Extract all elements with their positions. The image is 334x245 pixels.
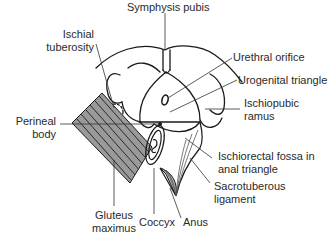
label-ischiopubic-ramus-line1: Ischiopubic [244, 97, 299, 110]
label-perineal-body-line1: Perineal [10, 115, 56, 128]
label-ischiorectal-fossa-line1: Ischiorectal fossa in [218, 150, 315, 163]
pubic-outline [96, 46, 242, 82]
label-perineal-body-line2: body [10, 128, 56, 141]
label-sacrotuberous-ligament-line2: ligament [214, 193, 256, 206]
label-ischiopubic-ramus-line2: ramus [244, 110, 275, 123]
label-gluteus-maximus-line1: Gluteus [88, 209, 140, 222]
label-symphysis-pubis: Symphysis pubis [127, 1, 210, 14]
label-anus: Anus [183, 216, 208, 229]
label-sacrotuberous-ligament-line1: Sacrotuberous [214, 180, 286, 193]
sacrotuberous-ligament [160, 122, 202, 196]
gluteus-maximus-muscle [55, 68, 180, 194]
urogenital-triangle-outline [140, 72, 166, 122]
label-urogenital-triangle: Urogenital triangle [238, 74, 327, 87]
label-urethral-orifice: Urethral orifice [233, 51, 305, 64]
label-ischiorectal-fossa-line2: anal triangle [218, 163, 278, 176]
label-gluteus-maximus-line2: maximus [84, 222, 144, 235]
label-coccyx: Coccyx [139, 216, 175, 229]
label-ischial-tuberosity-line1: Ischial [47, 28, 94, 41]
label-ischial-tuberosity-line2: tuberosity [40, 41, 94, 54]
urethral-orifice [161, 94, 169, 105]
